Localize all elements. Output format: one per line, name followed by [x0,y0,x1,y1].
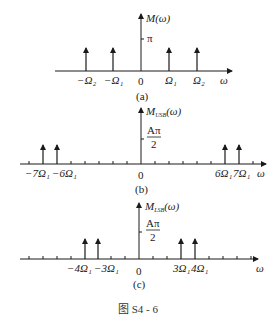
impulse-label: 4Ω₁ [191,262,208,274]
impulse-label: −6Ω₁ [52,167,77,179]
impulse-label: −3Ω₁ [94,262,119,274]
panel-caption: (b) [135,183,148,196]
y-tick-label-den: 2 [151,138,157,150]
impulse-label: 7Ω₁ [233,167,250,179]
impulse-label: Ω₁ [165,74,177,86]
figure-caption: 图 S4 - 6 [118,303,159,315]
panel-c: Aπ 2 MLSB(ω) −4Ω₁ −3Ω₁ 0 3Ω₁ 4Ω₁ ω (c) [20,200,264,291]
impulses [85,239,195,259]
impulse-label: −7Ω₁ [25,167,50,179]
impulse-label: −Ω₂ [77,74,96,86]
y-tick-label: π [147,32,153,44]
x-axis-label: ω [256,262,264,274]
x-axis-label: ω [257,167,265,179]
origin-label: 0 [138,75,144,87]
panel-b: Aπ 2 MUSB(ω) −7Ω₁ −6Ω₁ 0 6Ω₁ 7Ω₁ ω (b) [20,105,266,196]
impulse-label: −4Ω₁ [67,262,92,274]
y-tick-label-num: Aπ [147,124,161,136]
y-tick-label-num: Aπ [146,217,160,229]
y-axis-label: MLSB(ω) [144,200,180,213]
origin-label: 0 [136,265,142,277]
figure-s4-6: π M(ω) −Ω₂ −Ω₁ 0 Ω₁ Ω₂ ω (a) Aπ 2 [0,0,278,324]
x-axis-label: ω [220,74,228,86]
origin-label: 0 [138,169,144,181]
y-tick-label-den: 2 [150,231,156,243]
panel-caption: (c) [133,278,146,291]
panel-a: π M(ω) −Ω₂ −Ω₁ 0 Ω₁ Ω₂ ω (a) [55,12,232,103]
y-axis-label: M(ω) [145,12,171,25]
impulse-label: 6Ω₁ [215,167,232,179]
impulse-label: Ω₂ [193,74,205,86]
impulse-label: 3Ω₁ [172,262,190,274]
y-axis-label: MUSB(ω) [145,105,182,118]
panel-caption: (a) [136,90,149,103]
impulse-label: −Ω₁ [104,74,123,86]
